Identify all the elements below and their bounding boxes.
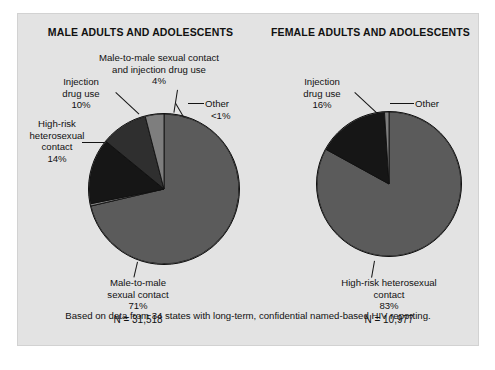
label-mm-sexual-male: Male-to-male sexual contact 71% (78, 277, 198, 312)
pie-chart-male (88, 113, 240, 265)
label-other-male: Other <1% (205, 98, 265, 121)
label-injection-drug-use-female: Injection drug use 16% (281, 76, 363, 111)
leader-line-high-risk-heterosexual-male (82, 142, 104, 143)
leader-line-other-female (390, 103, 414, 104)
pie-chart-female (316, 111, 462, 257)
figure-panel: MALE ADULTS AND ADOLESCENTS Male-to-male… (18, 14, 478, 345)
label-injection-drug-use-male: Injection drug use 10% (40, 76, 122, 111)
leader-line-other-male (188, 103, 204, 104)
panel-title-male: MALE ADULTS AND ADOLESCENTS (18, 26, 263, 38)
leader-line-mm-sexual-and-idu-male (173, 90, 178, 113)
panel-male-adults: MALE ADULTS AND ADOLESCENTS Male-to-male… (18, 14, 263, 345)
label-other-female: Other (415, 98, 475, 110)
figure-footnote: Based on data from 34 states with long-t… (18, 310, 478, 321)
leader-line-high-risk-heterosexual-female (371, 261, 375, 278)
panel-female-adults: FEMALE ADULTS AND ADOLESCENTS Injection … (263, 14, 478, 345)
panel-title-female: FEMALE ADULTS AND ADOLESCENTS (263, 26, 478, 38)
label-high-risk-heterosexual-female: High-risk heterosexual contact 83% (299, 277, 479, 312)
leader-line-mm-sexual-male (133, 262, 138, 278)
